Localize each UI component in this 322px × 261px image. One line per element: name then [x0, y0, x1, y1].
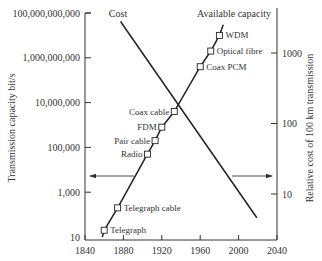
y-tick-label-left: 10 — [70, 232, 80, 243]
y-tick-label-left: 1,000 — [58, 187, 81, 198]
left-arrow-head-icon — [89, 174, 96, 178]
y-axis-right-title: Relative cost of 100 km transmission — [304, 54, 315, 203]
cost-label: Cost — [109, 8, 128, 19]
y-tick-label-left: 100,000,000,000 — [13, 8, 81, 19]
y-tick-label-left: 10,000,000 — [35, 97, 80, 108]
ticks: 184018801920196020002040101,000100,00010… — [13, 8, 303, 257]
y-tick-label-left: 1,000,000,000 — [23, 52, 81, 63]
y-tick-label-right: 1000 — [282, 48, 302, 59]
available-capacity-label: Available capacity — [197, 8, 271, 19]
capacity-marker — [208, 48, 214, 54]
capacity-marker — [101, 227, 107, 233]
right-arrow-head-icon — [266, 174, 273, 178]
capacity-marker — [216, 32, 222, 38]
point-label: FDM — [137, 122, 157, 132]
capacity-marker — [115, 205, 121, 211]
point-label: WDM — [225, 30, 248, 40]
capacity-marker — [144, 151, 150, 157]
y-tick-label-left: 100,000 — [48, 142, 81, 153]
x-tick-label: 1920 — [152, 245, 172, 256]
capacity-marker — [152, 138, 158, 144]
x-tick-label: 2040 — [267, 245, 287, 256]
x-tick-label: 1960 — [190, 245, 210, 256]
y-tick-label-right: 100 — [282, 118, 297, 129]
y-tick-label-right: 10 — [282, 189, 292, 200]
capacity-marker — [171, 109, 177, 115]
capacity-cost-chart: 184018801920196020002040101,000100,00010… — [0, 0, 322, 261]
point-label: Pair cable — [114, 136, 150, 146]
point-label: Optical fibre — [217, 46, 263, 56]
point-label: Telegraph cable — [124, 203, 181, 213]
point-label: Telegraph — [110, 225, 146, 235]
capacity-marker — [159, 124, 165, 130]
point-label: Radio — [121, 149, 143, 159]
x-tick-label: 2000 — [229, 245, 249, 256]
point-label: Coax cable — [129, 107, 169, 117]
capacity-marker — [197, 64, 203, 70]
y-axis-left-title: Transmission capacity bit/s — [6, 73, 17, 182]
x-tick-label: 1840 — [75, 245, 95, 256]
x-tick-label: 1880 — [113, 245, 133, 256]
point-label: Coax PCM — [206, 62, 246, 72]
labels: TelegraphTelegraph cableRadioPair cableF… — [6, 8, 315, 235]
